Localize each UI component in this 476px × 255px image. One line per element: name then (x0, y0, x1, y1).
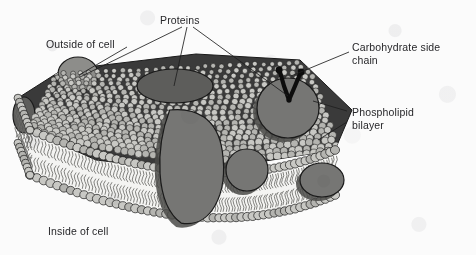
protein-integral-surface-mid (137, 69, 213, 103)
label-carbohydrate-side-chain: Carbohydrate side chain (352, 41, 440, 66)
label-proteins: Proteins (160, 14, 200, 27)
label-inside-of-cell: Inside of cell (48, 225, 108, 238)
diagram-canvas: Outside of cell Proteins Carbohydrate si… (0, 0, 476, 255)
carbohydrate-knob-1 (276, 67, 283, 74)
label-outside-of-cell: Outside of cell (46, 38, 115, 51)
carbohydrate-anchor (286, 97, 291, 102)
label-phospholipid-bilayer: Phospholipid bilayer (352, 106, 414, 131)
